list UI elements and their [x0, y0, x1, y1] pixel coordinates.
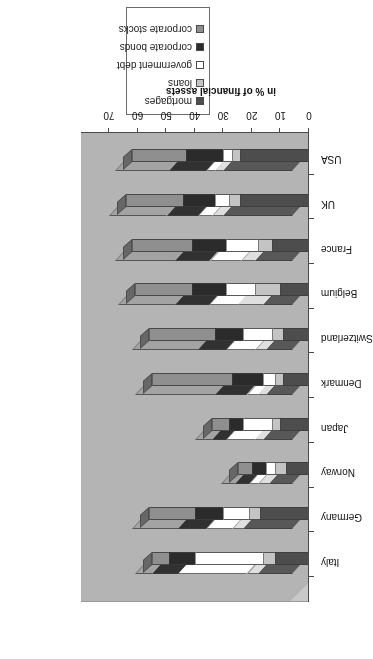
- bar-segment-top-mortgages: [223, 207, 300, 216]
- category-label: Belgium: [321, 289, 357, 300]
- value-tick: [137, 128, 138, 133]
- chart-panel-top-edge: [81, 601, 309, 602]
- category-tick: [309, 263, 314, 264]
- value-tick-label: 30: [218, 110, 229, 121]
- bar-segment-government-debt: [243, 328, 272, 341]
- value-tick-label: 50: [161, 110, 172, 121]
- bar-segment-government-debt: [243, 418, 272, 431]
- bar-segment-mortgages: [286, 462, 309, 475]
- bar-segment-corporate-stocks: [132, 149, 186, 162]
- category-label: Denmark: [321, 378, 362, 389]
- bar-france: [81, 239, 309, 261]
- category-tick: [309, 442, 314, 443]
- bar-segment-corporate-stocks: [149, 328, 215, 341]
- bar-segment-mortgages: [240, 194, 309, 207]
- value-tick-label: 40: [189, 110, 200, 121]
- bar-segment-corporate-bonds: [186, 149, 223, 162]
- bar-germany: [81, 507, 309, 529]
- bar-segment-corporate-bonds: [183, 194, 214, 207]
- legend-label-government-debt: government debt: [117, 58, 192, 73]
- legend-item: corporate stocks: [131, 19, 204, 37]
- bar-segment-mortgages: [275, 552, 309, 565]
- bar-segment-top-mortgages: [243, 520, 300, 529]
- legend-label-corporate-stocks: corporate stocks: [119, 22, 192, 37]
- category-label: USA: [321, 155, 342, 166]
- bar-segment-government-debt: [226, 239, 257, 252]
- bar-segment-corporate-stocks: [152, 552, 169, 565]
- bar-segment-government-debt: [223, 507, 249, 520]
- bar-segment-corporate-stocks: [212, 418, 229, 431]
- chart-legend: mortgages loans government debt corporat…: [126, 7, 210, 115]
- bar-segment-government-debt: [215, 194, 229, 207]
- bar-segment-mortgages: [260, 507, 309, 520]
- legend-item: corporate bonds: [131, 37, 204, 55]
- bar-segment-mortgages: [283, 373, 309, 386]
- legend-swatch-corporate-bonds: [196, 43, 204, 51]
- category-tick: [309, 487, 314, 488]
- category-label: UK: [321, 200, 335, 211]
- bar-segment-mortgages: [280, 418, 309, 431]
- bar-usa: [81, 149, 309, 171]
- value-axis-title: in % of financial assets: [107, 86, 335, 97]
- bar-segment-corporate-stocks: [135, 283, 192, 296]
- legend-label-corporate-bonds: corporate bonds: [120, 40, 192, 55]
- bar-segment-corporate-bonds: [215, 328, 244, 341]
- bar-segment-corporate-stocks: [149, 507, 195, 520]
- value-tick: [108, 128, 109, 133]
- legend-swatch-mortgages: [196, 97, 204, 105]
- category-label: Switzerland: [321, 334, 373, 345]
- value-tick: [165, 128, 166, 133]
- value-tick: [279, 128, 280, 133]
- bar-segment-loans: [258, 239, 272, 252]
- bar-norway: [81, 462, 309, 484]
- bar-segment-corporate-bonds: [229, 418, 243, 431]
- bar-japan: [81, 418, 309, 440]
- category-tick: [309, 576, 314, 577]
- bar-segment-corporate-stocks: [132, 239, 192, 252]
- bar-segment-corporate-bonds: [192, 239, 226, 252]
- category-label: Norway: [321, 468, 355, 479]
- bar-switzerland: [81, 328, 309, 350]
- legend-swatch-corporate-stocks: [196, 25, 204, 33]
- category-tick: [309, 218, 314, 219]
- value-tick: [251, 128, 252, 133]
- bar-segment-mortgages: [283, 328, 309, 341]
- bar-segment-mortgages: [240, 149, 309, 162]
- bar-segment-loans: [249, 507, 260, 520]
- legend-swatch-government-debt: [196, 61, 204, 69]
- bar-segment-loans: [255, 283, 281, 296]
- bar-segment-government-debt: [195, 552, 264, 565]
- bar-belgium: [81, 283, 309, 305]
- bar-segment-mortgages: [280, 283, 309, 296]
- bar-segment-mortgages: [272, 239, 309, 252]
- bar-uk: [81, 194, 309, 216]
- bar-italy: [81, 552, 309, 574]
- value-tick-label: 20: [246, 110, 257, 121]
- bar-segment-corporate-bonds: [169, 552, 195, 565]
- bar-segment-top-government-debt: [178, 565, 255, 574]
- bar-segment-corporate-bonds: [232, 373, 263, 386]
- bar-segment-corporate-bonds: [192, 283, 226, 296]
- bar-segment-corporate-stocks: [126, 194, 183, 207]
- bar-segment-government-debt: [263, 373, 274, 386]
- bar-segment-loans: [272, 418, 281, 431]
- category-tick: [309, 308, 314, 309]
- bar-denmark: [81, 373, 309, 395]
- value-tick: [308, 128, 309, 133]
- bar-segment-loans: [275, 462, 286, 475]
- value-tick-label: 10: [275, 110, 286, 121]
- category-label: Japan: [321, 423, 348, 434]
- bar-segment-loans: [229, 194, 240, 207]
- category-axis-line: [81, 132, 309, 133]
- category-tick: [309, 352, 314, 353]
- plot-area: 010203040506070 USAUKFranceBelgiumSwitze…: [81, 132, 309, 602]
- value-tick-label: 70: [103, 110, 114, 121]
- category-label: Germany: [321, 512, 362, 523]
- bar-segment-corporate-bonds: [195, 507, 224, 520]
- value-tick: [222, 128, 223, 133]
- bar-segment-loans: [275, 373, 284, 386]
- category-label: France: [321, 244, 352, 255]
- category-tick: [309, 397, 314, 398]
- category-tick: [309, 531, 314, 532]
